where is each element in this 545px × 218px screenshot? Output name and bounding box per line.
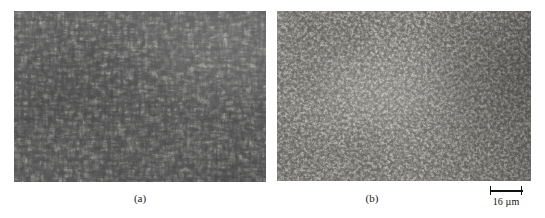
panel-caption-b: (b) [277,193,467,204]
scale-bar-graphic [490,186,523,195]
figure-root: (a) (b) 16 µm [0,0,545,218]
micrograph-panel-b [277,11,531,181]
micrograph-panel-a [14,11,266,182]
scale-bar: 16 µm [486,186,526,207]
scale-bar-cap-right [521,186,523,195]
scale-bar-cap-left [490,186,492,195]
scale-bar-label: 16 µm [486,196,526,207]
scale-bar-line [490,190,523,192]
panel-caption-a: (a) [0,193,280,204]
micrograph-texture-a [14,11,266,182]
micrograph-texture-b [277,11,531,181]
